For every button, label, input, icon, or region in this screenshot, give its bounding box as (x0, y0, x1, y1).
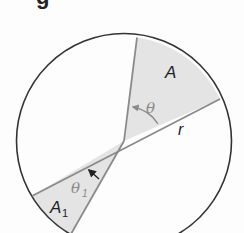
label-area-a: A (164, 63, 176, 82)
label-a1-sub: 1 (62, 207, 68, 219)
diagram-canvas: g A θ r θ 1 A 1 (0, 0, 244, 233)
diameter-line (32, 99, 220, 196)
label-radius-r: r (178, 121, 184, 138)
circle-sector-diagram: g A θ r θ 1 A 1 (0, 0, 244, 233)
label-theta1-sub: 1 (82, 188, 88, 199)
heading-fragment: g (36, 0, 49, 9)
label-a1-main: A (49, 198, 61, 217)
sector-a (124, 38, 220, 142)
label-theta: θ (146, 99, 155, 117)
label-theta1-main: θ (71, 179, 80, 197)
